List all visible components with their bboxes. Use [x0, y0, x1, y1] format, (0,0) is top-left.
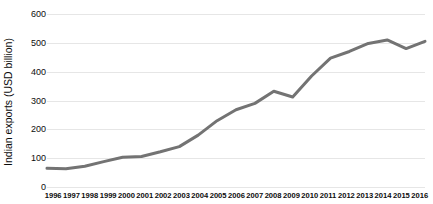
x-tick-label-2004: 2004 — [191, 190, 209, 202]
y-tick-label-500: 500 — [16, 38, 46, 48]
x-tick-label-1998: 1998 — [81, 190, 99, 202]
y-tick-label-400: 400 — [16, 67, 46, 77]
line-chart: Indian exports (USD billion) 01002003004… — [0, 0, 433, 204]
x-tick-label-2016: 2016 — [411, 190, 429, 202]
x-tick-label-2011: 2011 — [319, 190, 337, 202]
x-tick-label-2015: 2015 — [392, 190, 410, 202]
y-tick-label-600: 600 — [16, 9, 46, 19]
x-tick-label-2005: 2005 — [209, 190, 227, 202]
x-tick-label-2002: 2002 — [154, 190, 172, 202]
x-tick-label-2014: 2014 — [374, 190, 392, 202]
y-tick-label-200: 200 — [16, 124, 46, 134]
x-tick-label-2008: 2008 — [264, 190, 282, 202]
x-tick-label-2003: 2003 — [172, 190, 190, 202]
x-tick-label-2007: 2007 — [246, 190, 264, 202]
y-tick-label-300: 300 — [16, 96, 46, 106]
x-tick-label-2000: 2000 — [117, 190, 135, 202]
y-axis-title: Indian exports (USD billion) — [0, 0, 16, 204]
y-axis-tick-labels: 0100200300400500600 — [16, 0, 46, 204]
x-tick-label-2001: 2001 — [136, 190, 154, 202]
plot-area — [47, 14, 425, 187]
gridline-0 — [47, 187, 425, 188]
y-tick-label-100: 100 — [16, 153, 46, 163]
y-tick-label-0: 0 — [16, 182, 46, 192]
x-tick-label-2013: 2013 — [356, 190, 374, 202]
x-tick-label-2012: 2012 — [337, 190, 355, 202]
x-tick-label-2009: 2009 — [282, 190, 300, 202]
series-line-indian-exports — [47, 14, 425, 187]
x-axis-tick-labels: 1996199719981999200020012002200320042005… — [44, 190, 429, 202]
x-tick-label-2006: 2006 — [227, 190, 245, 202]
x-tick-label-1996: 1996 — [44, 190, 62, 202]
x-tick-label-1999: 1999 — [99, 190, 117, 202]
x-tick-label-2010: 2010 — [301, 190, 319, 202]
x-tick-label-1997: 1997 — [62, 190, 80, 202]
